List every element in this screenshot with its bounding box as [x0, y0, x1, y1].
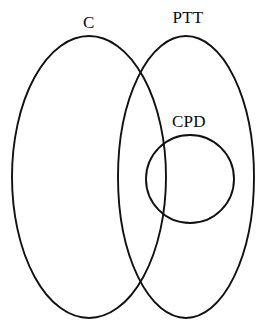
set-label-ptt: PTT — [173, 9, 204, 26]
diagram-background — [0, 0, 278, 332]
set-label-cpd: CPD — [172, 113, 206, 130]
venn-diagram-canvas — [0, 0, 278, 332]
set-diagram: C PTT CPD — [0, 0, 278, 332]
set-label-c: C — [83, 14, 95, 31]
